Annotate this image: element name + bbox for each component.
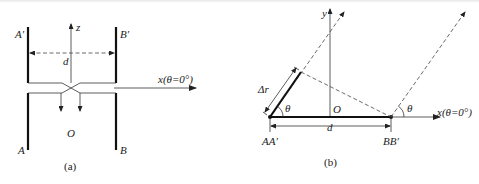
crossed-feed-line — [28, 83, 116, 93]
label-b-prime: B′ — [120, 28, 130, 40]
ray-from-bb-prime — [391, 12, 465, 117]
theta-label-left: θ — [285, 102, 291, 114]
y-axis-label: y — [321, 7, 327, 19]
panel-a: z d x(θ=0°) A′ B′ A B O (a) — [14, 21, 196, 173]
origin-label-a: O — [67, 127, 75, 139]
theta-arc-left — [278, 106, 284, 117]
separation-label-b: d — [327, 121, 333, 133]
label-a: A — [17, 144, 25, 156]
wavefront-line — [301, 72, 391, 117]
origin-label-b: O — [333, 103, 341, 115]
z-axis-label: z — [75, 21, 81, 33]
delta-r-label: Δr — [257, 83, 269, 95]
caption-b: (b) — [324, 156, 337, 169]
theta-arc-right — [399, 106, 405, 117]
caption-a: (a) — [64, 160, 77, 173]
x-axis-label-a: x(θ=0°) — [157, 73, 193, 86]
label-aa-prime: AA′ — [261, 135, 278, 147]
theta-label-right: θ — [407, 102, 413, 114]
label-bb-prime: BB′ — [383, 135, 399, 147]
panel-b: y x(θ=0°) Δr θ θ O d — [257, 7, 472, 169]
x-axis-label-b: x(θ=0°) — [436, 106, 472, 119]
antenna-pair-diagram: z d x(θ=0°) A′ B′ A B O (a) y x(θ=0°) — [0, 0, 479, 184]
label-a-prime: A′ — [14, 28, 25, 40]
label-b: B — [120, 144, 127, 156]
separation-label-a: d — [63, 55, 69, 67]
